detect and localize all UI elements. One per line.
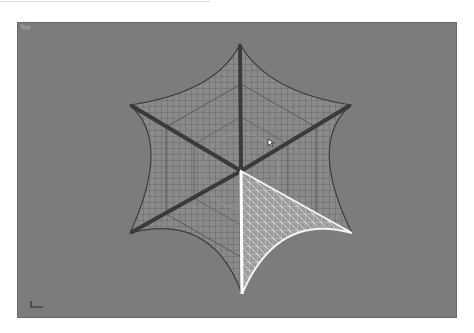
viewport-top[interactable]: Top <box>17 22 457 318</box>
mesh-object[interactable] <box>17 22 457 318</box>
top-divider <box>0 1 210 2</box>
axis-tripod-icon <box>30 300 44 308</box>
mouse-cursor-icon <box>267 138 275 148</box>
